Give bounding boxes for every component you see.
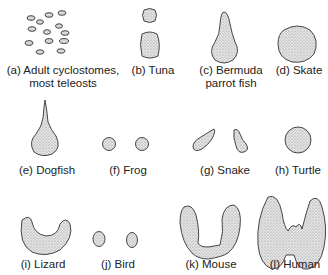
label-a-line2: most teleosts	[3, 77, 123, 90]
label-c: (c) Bermuda parrot fish	[196, 64, 266, 90]
frog-thyroid-right	[136, 138, 149, 151]
label-a-line1: (a) Adult cyclostomes,	[3, 64, 123, 77]
thyroid-shapes-figure	[0, 0, 328, 275]
label-k: (k) Mouse	[176, 258, 246, 271]
label-e-line1: (e) Dogfish	[12, 164, 82, 177]
label-f: (f) Frog	[100, 164, 156, 177]
label-h-line1: (h) Turtle	[268, 164, 328, 177]
label-l: (l) Human	[262, 258, 328, 271]
label-h: (h) Turtle	[268, 164, 328, 177]
label-c-line1: (c) Bermuda	[196, 64, 266, 77]
label-b-line1: (b) Tuna	[128, 64, 178, 77]
label-f-line1: (f) Frog	[100, 164, 156, 177]
label-e: (e) Dogfish	[12, 164, 82, 177]
label-b: (b) Tuna	[128, 64, 178, 77]
label-i-line1: (i) Lizard	[8, 258, 78, 271]
label-c-line2: parrot fish	[196, 77, 266, 90]
frog-thyroid-left	[103, 138, 116, 151]
parrotfish-thyroid	[212, 12, 238, 63]
label-g: (g) Snake	[190, 164, 260, 177]
label-l-line1: (l) Human	[262, 258, 328, 271]
label-g-line1: (g) Snake	[190, 164, 260, 177]
turtle-thyroid	[285, 127, 311, 153]
tuna-thyroid	[143, 9, 157, 23]
snake-thyroid-left	[193, 129, 215, 151]
dogfish-thyroid	[31, 100, 58, 156]
label-j-line1: (j) Bird	[90, 258, 146, 271]
label-d: (d) Skate	[271, 64, 327, 77]
skate-thyroid	[278, 26, 316, 62]
lizard-thyroid	[21, 217, 71, 254]
label-k-line1: (k) Mouse	[176, 258, 246, 271]
label-j: (j) Bird	[90, 258, 146, 271]
label-i: (i) Lizard	[8, 258, 78, 271]
label-d-line1: (d) Skate	[271, 64, 327, 77]
mouse-thyroid	[180, 205, 240, 259]
label-a: (a) Adult cyclostomes, most teleosts	[3, 64, 123, 90]
bird-thyroid-right	[127, 233, 138, 248]
follicles-a	[25, 11, 69, 55]
tuna-thyroid-lower	[141, 32, 160, 58]
snake-thyroid-right	[234, 130, 248, 153]
bird-thyroid-left	[93, 232, 105, 247]
